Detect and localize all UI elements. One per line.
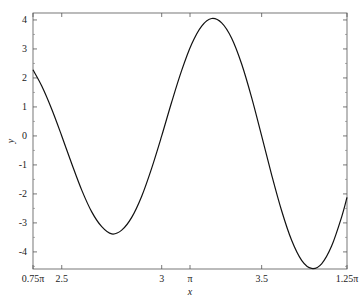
y-tick-label: 0 (22, 130, 27, 141)
y-axis-label: y (5, 138, 16, 144)
plot-frame (33, 13, 347, 269)
x-tick-label: 2.5 (55, 273, 68, 284)
x-axis-ticks: 0.75π2.53π3.51.25π (22, 13, 359, 284)
y-tick-label: -1 (19, 159, 27, 170)
x-tick-label: 0.75π (22, 273, 45, 284)
x-tick-label: 3 (159, 273, 164, 284)
line-chart: 0.75π2.53π3.51.25π 43210-1-2-3-4 x y (0, 0, 364, 306)
y-tick-label: -2 (19, 188, 27, 199)
x-tick-label: 1.25π (336, 273, 359, 284)
y-tick-label: 3 (22, 43, 27, 54)
y-axis-ticks: 43210-1-2-3-4 (19, 14, 347, 266)
x-tick-label: π (187, 273, 192, 284)
series-line (33, 18, 347, 268)
y-tick-label: -3 (19, 217, 27, 228)
y-tick-label: 2 (22, 72, 27, 83)
y-tick-label: -4 (19, 246, 27, 257)
y-tick-label: 4 (22, 14, 27, 25)
x-axis-label: x (187, 286, 193, 297)
x-tick-label: 3.5 (255, 273, 268, 284)
data-series (33, 18, 347, 268)
y-tick-label: 1 (22, 101, 27, 112)
